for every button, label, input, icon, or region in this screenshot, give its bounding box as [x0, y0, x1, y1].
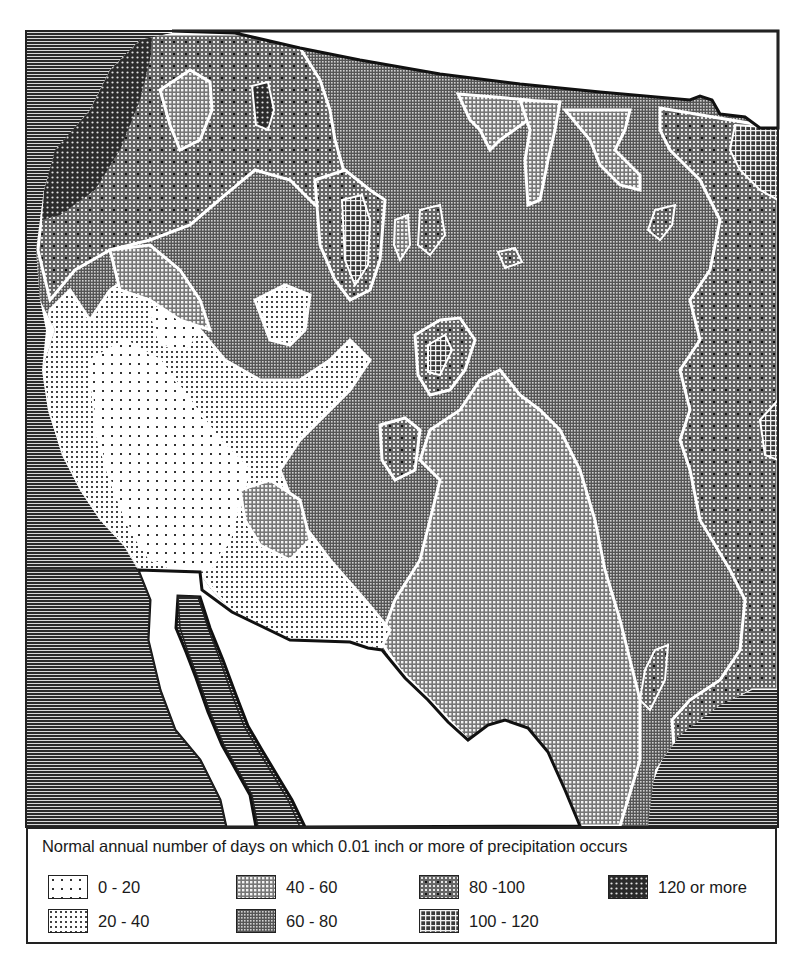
legend: Normal annual number of days on which 0.… [26, 827, 777, 944]
precipitation-map [0, 0, 803, 969]
swatch-fine-grid [236, 909, 276, 933]
swatch-dense-dots [48, 909, 88, 933]
swatch-sparse-dots [48, 875, 88, 899]
legend-item-0-20: 0 - 20 [48, 875, 140, 899]
legend-item-80-100: 80 -100 [419, 875, 525, 899]
legend-item-100-120: 100 - 120 [419, 909, 539, 933]
legend-item-20-40: 20 - 40 [48, 909, 149, 933]
legend-item-120-plus: 120 or more [608, 875, 747, 899]
legend-item-40-60: 40 - 60 [236, 875, 337, 899]
legend-title: Normal annual number of days on which 0.… [42, 837, 628, 856]
swatch-coarse-white-grid [419, 909, 459, 933]
legend-item-60-80: 60 - 80 [236, 909, 337, 933]
swatch-dark-dot-screen [608, 875, 648, 899]
swatch-light-grid [236, 875, 276, 899]
swatch-grid-with-dots [419, 875, 459, 899]
